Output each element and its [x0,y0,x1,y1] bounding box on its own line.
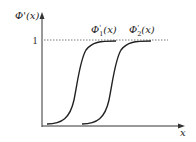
curve2-label: Φ'2(x) [129,24,155,38]
y-tick-label-one: 1 [33,35,38,46]
chart-canvas: 1 Φ'(x) Φ'1(x) Φ'2(x) x [0,0,196,142]
curve1-label: Φ'1(x) [91,24,117,38]
y-axis-arrow-icon [40,12,45,19]
x-axis-label: x [180,127,186,138]
y-axis-label: Φ'(x) [15,10,39,21]
curve-phi2 [82,41,151,124]
